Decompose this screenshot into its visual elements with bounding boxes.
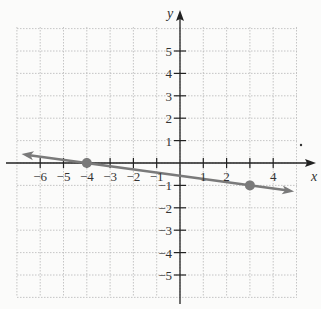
- y-tick-label: −5: [158, 268, 172, 283]
- x-tick-label: 1: [200, 169, 207, 184]
- x-tick-label: −2: [126, 169, 140, 184]
- x-tick-label: −5: [57, 169, 71, 184]
- x-tick-label: 4: [270, 169, 277, 184]
- y-tick-label: −2: [158, 201, 172, 216]
- tick-labels: −6−5−4−3−2−112454321−1−2−3−4−5xy: [33, 6, 318, 283]
- y-tick-label: 2: [166, 111, 173, 126]
- y-tick-label: 3: [166, 89, 173, 104]
- x-tick-label: −3: [103, 169, 117, 184]
- y-tick-label: −1: [158, 178, 172, 193]
- y-tick-label: −4: [158, 246, 172, 261]
- x-axis-label: x: [310, 169, 318, 184]
- y-tick-label: −3: [158, 223, 172, 238]
- stray-dot: [300, 144, 302, 146]
- y-tick-label: 5: [166, 44, 173, 59]
- data-point: [82, 158, 92, 168]
- x-tick-label: −4: [80, 169, 94, 184]
- data-point: [245, 180, 255, 190]
- y-axis-label: y: [165, 6, 174, 21]
- y-tick-label: 4: [166, 66, 173, 81]
- y-tick-label: 1: [166, 134, 173, 149]
- coordinate-plane: −6−5−4−3−2−112454321−1−2−3−4−5xy: [0, 0, 321, 309]
- x-tick-label: 2: [223, 169, 230, 184]
- x-tick-label: −6: [33, 169, 47, 184]
